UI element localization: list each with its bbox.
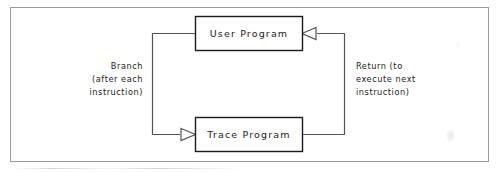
edge-label-branch-line-1: Branch xyxy=(111,61,143,71)
edge-label-return-line-1: Return (to xyxy=(356,61,403,71)
arrowhead-into-user-program-icon xyxy=(302,28,316,40)
edge-branch-path xyxy=(153,34,197,135)
arrowhead-into-trace-program-icon xyxy=(181,129,196,141)
edge-label-return-line-3: instruction) xyxy=(356,87,409,97)
figure-canvas: User Program Trace Program Branch (after… xyxy=(0,0,504,172)
node-user-program-label: User Program xyxy=(210,28,289,39)
flow-diagram: User Program Trace Program Branch (after… xyxy=(0,0,504,172)
edge-label-branch: Branch (after each instruction) xyxy=(90,61,143,97)
edge-label-return: Return (to execute next instruction) xyxy=(356,61,416,97)
node-trace-program-label: Trace Program xyxy=(206,129,290,140)
edge-label-branch-line-2: (after each xyxy=(92,74,143,84)
node-user-program: User Program xyxy=(196,17,303,51)
node-trace-program: Trace Program xyxy=(196,118,303,152)
edge-return-path xyxy=(302,34,345,135)
edge-label-branch-line-3: instruction) xyxy=(90,87,143,97)
edge-return xyxy=(302,28,345,135)
edge-branch xyxy=(153,34,197,141)
edge-label-return-line-2: execute next xyxy=(356,74,416,84)
